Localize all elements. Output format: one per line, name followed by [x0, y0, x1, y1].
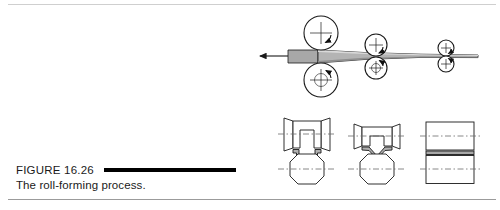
cross-section-intermediate — [348, 124, 406, 184]
roll-stand-side-view — [246, 10, 496, 100]
workpiece-profile-initial — [426, 151, 474, 155]
top-divider-rule — [8, 4, 496, 5]
upper-roll-3 — [438, 40, 454, 56]
figure-caption-line1: FIGURE 16.26 — [16, 163, 256, 177]
cross-section-final — [278, 118, 336, 184]
roll-cross-sections — [276, 112, 496, 192]
figure-page: FIGURE 16.26 The roll-forming process. — [0, 0, 500, 210]
figure-caption-text: The roll-forming process. — [16, 179, 256, 191]
upper-roll-1 — [304, 16, 338, 50]
upper-roll-profile-intermediate — [354, 124, 400, 149]
lower-roll-1 — [304, 63, 338, 97]
lower-roll-2 — [365, 57, 387, 79]
figure-number-label: FIGURE 16.26 — [16, 164, 94, 176]
bottom-divider-rule — [8, 199, 496, 200]
lower-roll-3 — [438, 56, 454, 72]
upper-roll-profile-final — [284, 118, 330, 151]
upper-roll-2 — [365, 34, 387, 56]
lower-roll-profile-initial — [426, 156, 474, 184]
figure-caption-block: FIGURE 16.26 The roll-forming process. — [16, 163, 256, 191]
cross-section-initial — [420, 122, 482, 184]
caption-rule — [104, 168, 236, 172]
